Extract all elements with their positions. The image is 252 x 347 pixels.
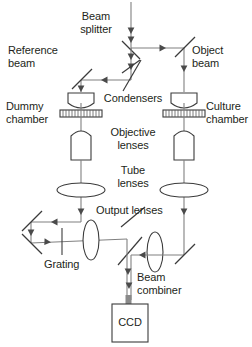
object-fold-mirror <box>175 244 195 264</box>
output-lens-left <box>83 220 99 260</box>
condensers-label: Condensers <box>101 92 165 105</box>
objective-lenses-label: Objective lenses <box>102 126 164 151</box>
grating-label: Grating <box>44 258 102 271</box>
objective-lens-left <box>71 131 91 160</box>
culture-chamber-label: Culture chamber <box>206 100 252 125</box>
object-beam-label: Object beam <box>192 44 250 69</box>
reference-lower-fold-path <box>28 219 127 246</box>
tube-lenses-label: Tube lenses <box>108 164 158 189</box>
object-beam-path <box>131 45 187 92</box>
dummy-chamber-label: Dummy chamber <box>6 100 68 125</box>
objective-lens-right <box>174 131 194 160</box>
output-lenses-label: Output lenses <box>96 204 178 217</box>
input-beam-path <box>128 2 135 50</box>
output-lens-right <box>147 232 163 272</box>
reference-fold-mirror-upper <box>22 211 42 231</box>
beam-splitter-label: Beam splitter <box>66 10 126 35</box>
reference-beam-label: Reference beam <box>8 44 76 69</box>
optical-diagram: Beam splitter Reference beam Object beam… <box>0 0 252 347</box>
ccd-label: CCD <box>112 316 148 329</box>
beam-combiner-label: Beam combiner <box>137 271 209 296</box>
reference-fold-mirror-lower <box>22 234 42 254</box>
